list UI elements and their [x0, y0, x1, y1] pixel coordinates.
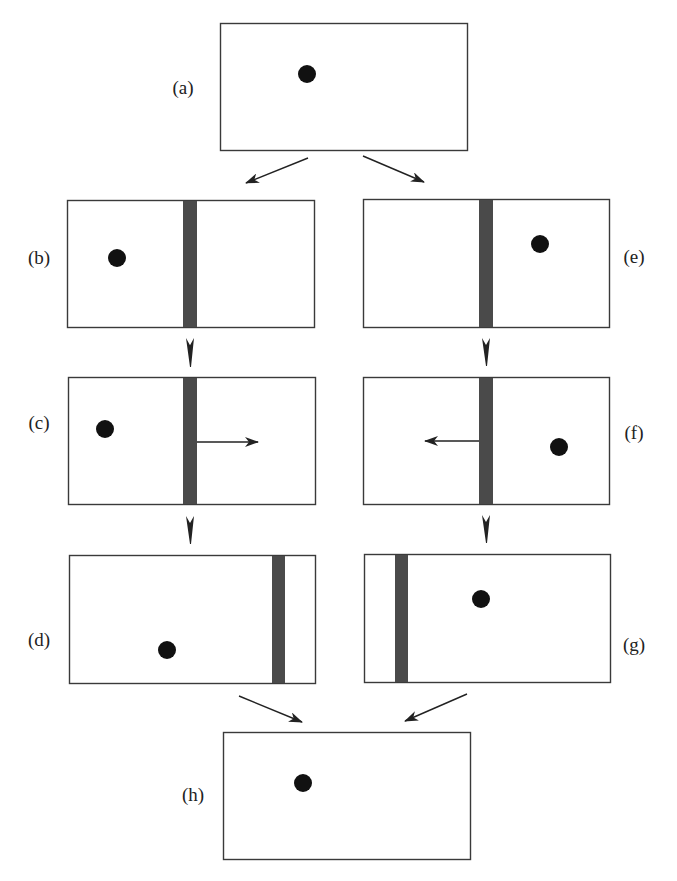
down-arrowhead-icon — [186, 516, 194, 544]
flow-arrow-icon — [363, 156, 424, 182]
flow-arrow-icon — [239, 696, 302, 722]
panel-label: (d) — [28, 629, 50, 651]
panel-label: (h) — [182, 784, 204, 806]
particle-dot — [96, 420, 114, 438]
particle-dot — [108, 249, 126, 267]
panel-label: (g) — [623, 634, 645, 656]
particle-dot — [158, 641, 176, 659]
moving-wall — [479, 200, 493, 327]
panel-b: (b) — [28, 201, 315, 328]
panel-frame — [224, 733, 471, 860]
panel-d: (d) — [28, 556, 316, 684]
panel-label: (e) — [623, 246, 644, 268]
particle-dot — [550, 438, 568, 456]
moving-wall — [395, 555, 408, 682]
particle-dot — [472, 590, 490, 608]
moving-wall — [272, 556, 285, 683]
particle-dot — [298, 65, 316, 83]
panel-label: (a) — [172, 77, 193, 99]
panel-h: (h) — [182, 733, 471, 860]
wall-motion-diagram: (a)(b)(c)(d)(e)(f)(g)(h) — [0, 0, 677, 881]
down-arrowhead-icon — [482, 515, 490, 543]
down-arrowhead-icon — [186, 338, 194, 367]
panel-g: (g) — [365, 555, 646, 683]
panels: (a)(b)(c)(d)(e)(f)(g)(h) — [28, 24, 645, 860]
flow-arrow-icon — [246, 158, 308, 183]
particle-dot — [531, 235, 549, 253]
panel-label: (c) — [28, 412, 49, 434]
moving-wall — [183, 201, 197, 327]
down-arrowhead-icon — [482, 338, 490, 366]
panel-c: (c) — [28, 378, 315, 505]
panel-a: (a) — [172, 24, 467, 151]
moving-wall — [479, 378, 493, 504]
panel-e: (e) — [364, 200, 645, 328]
flow-arrow-icon — [405, 694, 467, 721]
panel-label: (b) — [28, 247, 50, 269]
panel-label: (f) — [625, 422, 644, 444]
particle-dot — [294, 774, 312, 792]
moving-wall — [183, 378, 197, 504]
panel-frame — [221, 24, 468, 151]
panel-f: (f) — [364, 378, 644, 505]
